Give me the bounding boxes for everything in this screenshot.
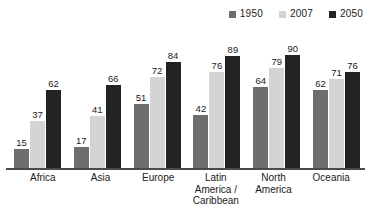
legend-item-1950: 1950 (229, 9, 263, 19)
bar-slot: 79 (269, 30, 284, 168)
bar-slot: 71 (329, 30, 344, 168)
legend-swatch-1950 (229, 11, 236, 18)
bar-value-label: 37 (32, 109, 43, 120)
bar (90, 116, 105, 168)
bar-slot: 37 (30, 30, 45, 168)
category-axis-labels: AfricaAsiaEuropeLatin America / Caribbea… (14, 172, 360, 207)
legend-label-2007: 2007 (290, 9, 313, 19)
category-label: Asia (72, 172, 130, 184)
bar-slot: 15 (14, 30, 29, 168)
bar-slot: 51 (134, 30, 149, 168)
bar (46, 90, 61, 168)
category-label: Europe (129, 172, 187, 184)
bar-slot: 64 (253, 30, 268, 168)
bar (209, 72, 224, 168)
legend-label-2050: 2050 (340, 9, 363, 19)
category-label: Latin America / Caribbean (187, 172, 245, 207)
bar-slot: 66 (106, 30, 121, 168)
bar-group: 153762 (14, 30, 61, 168)
bar-value-label: 84 (168, 50, 179, 61)
bar-slot: 62 (46, 30, 61, 168)
bar-value-label: 41 (92, 104, 103, 115)
bar-value-label: 51 (136, 92, 147, 103)
bar (285, 55, 300, 168)
bar (74, 147, 89, 168)
bar-value-label: 79 (271, 56, 282, 67)
bar-value-label: 62 (48, 78, 59, 89)
bar-slot: 72 (150, 30, 165, 168)
legend-label-1950: 1950 (240, 9, 263, 19)
bar-slot: 42 (193, 30, 208, 168)
bar (30, 121, 45, 168)
bar (14, 149, 29, 168)
bar (106, 85, 121, 168)
bar-value-label: 15 (16, 137, 27, 148)
bar (345, 72, 360, 168)
bar (193, 115, 208, 168)
legend-swatch-2007 (279, 11, 286, 18)
legend-item-2050: 2050 (329, 9, 363, 19)
bar-value-label: 89 (228, 44, 239, 55)
bar (329, 79, 344, 168)
chart-legend: 1950 2007 2050 (229, 7, 363, 21)
category-label: Africa (14, 172, 72, 184)
bar (253, 87, 268, 168)
bar-value-label: 66 (108, 73, 119, 84)
bar-value-label: 90 (287, 43, 298, 54)
category-label: Oceania (302, 172, 360, 184)
legend-swatch-2050 (329, 11, 336, 18)
bar-value-label: 76 (212, 60, 223, 71)
bar (313, 90, 328, 168)
x-axis-line (6, 168, 365, 170)
category-label: North America (245, 172, 303, 195)
bar-group: 174166 (74, 30, 121, 168)
bar-value-label: 72 (152, 65, 163, 76)
bar-slot: 89 (225, 30, 240, 168)
bar-chart: 1950 2007 2050 1537621741665172844276896… (0, 0, 371, 216)
bar-slot: 41 (90, 30, 105, 168)
bar-group: 647990 (253, 30, 300, 168)
bar (166, 62, 181, 168)
bar (225, 56, 240, 168)
bar-value-label: 17 (76, 135, 87, 146)
bar (150, 77, 165, 168)
bar-value-label: 76 (347, 60, 358, 71)
legend-item-2007: 2007 (279, 9, 313, 19)
bar-slot: 17 (74, 30, 89, 168)
bar-value-label: 42 (196, 103, 207, 114)
bar-group: 517284 (134, 30, 181, 168)
bar-slot: 76 (345, 30, 360, 168)
bar-slot: 90 (285, 30, 300, 168)
bar-value-label: 71 (331, 67, 342, 78)
bar-slot: 84 (166, 30, 181, 168)
bar-slot: 76 (209, 30, 224, 168)
bar (134, 104, 149, 168)
bar-groups: 153762174166517284427689647990627176 (14, 30, 360, 168)
bar (269, 68, 284, 168)
bar-group: 427689 (193, 30, 240, 168)
bar-value-label: 64 (255, 75, 266, 86)
bar-group: 627176 (313, 30, 360, 168)
bar-slot: 62 (313, 30, 328, 168)
plot-area: 153762174166517284427689647990627176 (14, 30, 360, 168)
bar-value-label: 62 (315, 78, 326, 89)
